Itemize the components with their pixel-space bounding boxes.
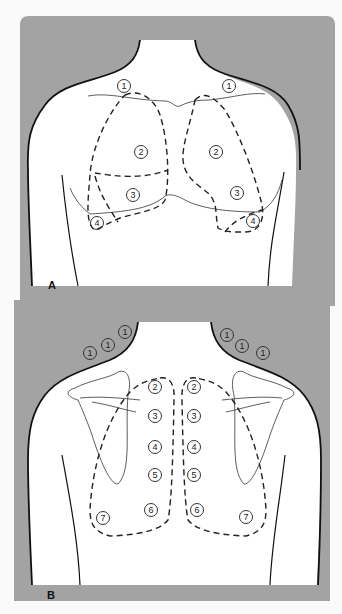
region-number-label: 1: [220, 328, 234, 342]
region-number-label: 5: [148, 468, 162, 482]
posterior-torso: [28, 322, 321, 585]
region-number-label: 1: [256, 346, 270, 360]
region-number-label: 1: [83, 346, 97, 360]
region-number-label: 1: [101, 338, 115, 352]
region-number-label: 3: [126, 188, 140, 202]
region-number-label: 7: [96, 511, 110, 525]
region-number-label: 3: [230, 186, 244, 200]
region-number-label: 6: [144, 503, 158, 517]
region-number-label: 1: [117, 79, 131, 93]
region-number-label: 7: [239, 510, 253, 524]
diagram-drawing: [0, 0, 342, 614]
region-number-label: 1: [222, 79, 236, 93]
panel-b-letter: B: [47, 589, 55, 601]
region-number-label: 4: [187, 440, 201, 454]
region-number-label: 3: [148, 409, 162, 423]
region-number-label: 1: [118, 325, 132, 339]
region-number-label: 1: [235, 339, 249, 353]
region-number-label: 2: [187, 380, 201, 394]
region-number-label: 3: [187, 409, 201, 423]
panel-a-letter: A: [48, 279, 56, 291]
region-number-label: 2: [134, 145, 148, 159]
region-number-label: 5: [187, 468, 201, 482]
region-number-label: 2: [148, 380, 162, 394]
region-number-label: 4: [246, 214, 260, 228]
anterior-torso: [28, 40, 300, 286]
region-number-label: 2: [209, 145, 223, 159]
region-number-label: 4: [90, 216, 104, 230]
region-number-label: 6: [190, 503, 204, 517]
region-number-label: 4: [148, 440, 162, 454]
